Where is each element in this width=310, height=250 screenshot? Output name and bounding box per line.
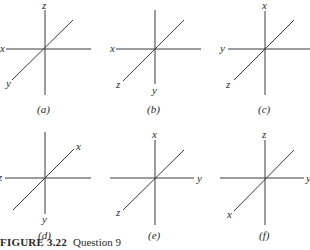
axis-label-up: x bbox=[151, 128, 157, 140]
panel-a: z x y (a) bbox=[0, 0, 91, 116]
axis-label-diag-low: z bbox=[115, 78, 121, 90]
diagonal-axis bbox=[234, 20, 294, 80]
axis-label-diag-low: y bbox=[5, 77, 11, 89]
diagonal-axis bbox=[123, 20, 184, 81]
axis-label-up: z bbox=[261, 128, 267, 140]
axes-diagram: z x y (a) x y z (b) x y z (c) bbox=[0, 0, 310, 250]
panel-f: z y x (f) bbox=[220, 128, 310, 242]
panel-label: (a) bbox=[37, 103, 50, 116]
panel-label: (f) bbox=[259, 229, 270, 242]
axis-label-left: x bbox=[0, 42, 5, 54]
panel-label: (e) bbox=[148, 229, 161, 242]
axis-label-up: z bbox=[41, 0, 47, 11]
axis-label-down: y bbox=[41, 213, 47, 225]
figure-caption: FIGURE 3.22Question 9 bbox=[0, 236, 121, 248]
axis-label-right: y bbox=[196, 172, 202, 184]
diagonal-axis bbox=[13, 149, 74, 210]
axis-label-left: z bbox=[0, 171, 3, 183]
figure-caption-text: Question 9 bbox=[73, 236, 121, 248]
panel-label: (c) bbox=[258, 103, 271, 116]
axis-label-up: x bbox=[261, 0, 267, 11]
figure-number: FIGURE 3.22 bbox=[0, 236, 67, 248]
axis-label-left: x bbox=[109, 42, 115, 54]
axis-label-down: y bbox=[151, 84, 157, 96]
coordinate-axes-figure: z x y (a) x y z (b) x y z (c) bbox=[0, 0, 310, 250]
axis-label-diag-low: x bbox=[226, 208, 232, 220]
panel-c: x y z (c) bbox=[219, 0, 310, 116]
panel-e: x y z (e) bbox=[110, 128, 202, 242]
diagonal-axis bbox=[12, 20, 73, 80]
diagonal-axis bbox=[234, 150, 294, 211]
diagonal-axis bbox=[123, 150, 184, 210]
panel-b: x y z (b) bbox=[109, 10, 201, 116]
axis-label-diag-high: x bbox=[75, 140, 81, 152]
panel-d: z y x (d) bbox=[0, 132, 91, 242]
panel-label: (b) bbox=[147, 103, 160, 116]
axis-label-diag-low: z bbox=[115, 206, 121, 218]
axis-label-right: y bbox=[305, 172, 310, 184]
axis-label-diag-low: z bbox=[225, 78, 231, 90]
axis-label-left: y bbox=[219, 42, 225, 54]
